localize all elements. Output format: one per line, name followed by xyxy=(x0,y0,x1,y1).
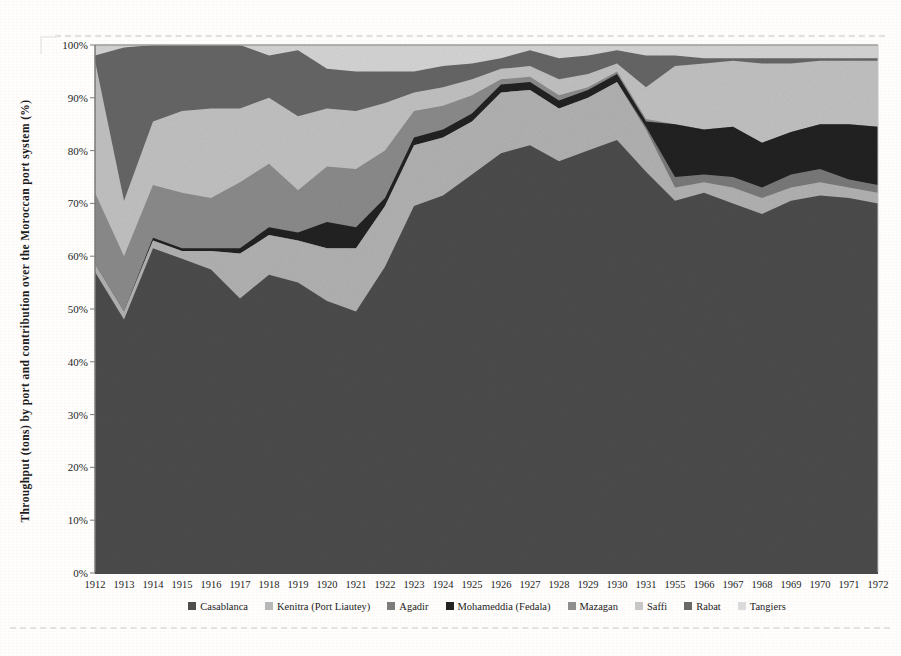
legend-swatch-casablanca xyxy=(188,602,196,610)
y-tick-label: 0% xyxy=(42,567,88,579)
y-tick-label: 10% xyxy=(42,514,88,526)
legend-label: Saffi xyxy=(647,601,667,612)
y-tick-label: 60% xyxy=(42,250,88,262)
legend-item-casablanca: Casablanca xyxy=(188,601,248,612)
scan-grain-overlay xyxy=(95,45,878,573)
y-tick-label: 70% xyxy=(42,197,88,209)
legend-swatch-agadir xyxy=(387,602,395,610)
legend-item-rabat: Rabat xyxy=(684,601,721,612)
legend-item-agadir: Agadir xyxy=(387,601,428,612)
y-tick-label: 80% xyxy=(42,145,88,157)
legend-swatch-mohameddia-fedala xyxy=(446,602,454,610)
y-tick-label: 90% xyxy=(42,92,88,104)
legend-label: Mazagan xyxy=(580,601,618,612)
y-tick-label: 100% xyxy=(42,39,88,51)
legend-label: Tangiers xyxy=(750,601,786,612)
legend-label: Casablanca xyxy=(200,601,248,612)
legend-swatch-mazagan xyxy=(568,602,576,610)
legend-label: Kenitra (Port Liautey) xyxy=(277,601,370,612)
legend-item-mohameddia-fedala: Mohameddia (Fedala) xyxy=(446,601,551,612)
legend-label: Mohameddia (Fedala) xyxy=(458,601,551,612)
legend-swatch-rabat xyxy=(684,602,692,610)
legend-item-kenitra-port-liautey: Kenitra (Port Liautey) xyxy=(265,601,370,612)
legend-label: Rabat xyxy=(696,601,721,612)
scanned-chart-figure: Throughput (tons) by port and contributi… xyxy=(0,0,901,656)
legend-label: Agadir xyxy=(399,601,428,612)
y-tick-label: 40% xyxy=(42,356,88,368)
legend-swatch-saffi xyxy=(635,602,643,610)
legend-item-saffi: Saffi xyxy=(635,601,667,612)
legend-item-tangiers: Tangiers xyxy=(738,601,786,612)
y-tick-label: 50% xyxy=(42,303,88,315)
y-tick-label: 20% xyxy=(42,461,88,473)
x-tick-label: 1972 xyxy=(861,579,895,591)
legend-swatch-kenitra-port-liautey xyxy=(265,602,273,610)
legend-item-mazagan: Mazagan xyxy=(568,601,618,612)
stacked-area-chart xyxy=(0,0,901,656)
scan-artifact-bottom-line xyxy=(10,627,890,629)
legend-swatch-tangiers xyxy=(738,602,746,610)
y-tick-label: 30% xyxy=(42,409,88,421)
chart-legend: CasablancaKenitra (Port Liautey)AgadirMo… xyxy=(95,598,879,614)
